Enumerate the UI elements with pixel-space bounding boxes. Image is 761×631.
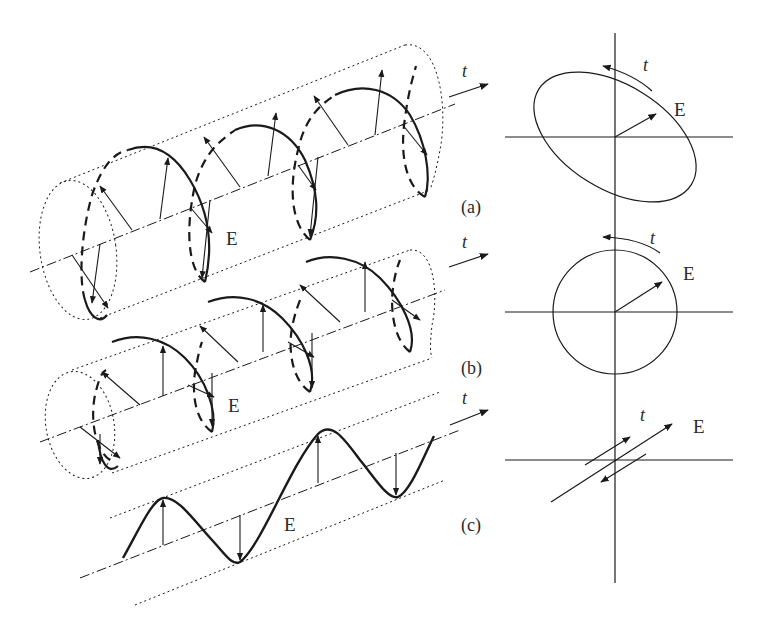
- panel-c-wave: [80, 392, 488, 605]
- end-view-b-time-label: t: [650, 229, 655, 247]
- vector-label-a: E: [226, 229, 238, 248]
- end-view-axes: [505, 33, 733, 583]
- panel-label-a: (a): [461, 198, 481, 216]
- panel-b-helix: [37, 250, 488, 484]
- end-view-c-vector-label: E: [693, 417, 705, 436]
- time-label-c: t: [462, 389, 467, 407]
- figure-canvas: [0, 0, 761, 631]
- end-view-a-time-label: t: [643, 56, 648, 74]
- panel-a-helix: [30, 45, 488, 325]
- time-label-b: t: [462, 233, 467, 251]
- time-label-a: t: [462, 62, 467, 80]
- panel-label-c: (c): [461, 516, 481, 534]
- end-view-a-vector-label: E: [674, 100, 686, 119]
- end-view-c-time-label: t: [640, 406, 645, 424]
- panel-label-b: (b): [461, 359, 482, 377]
- vector-label-b: E: [228, 396, 240, 415]
- end-view-b-vector-label: E: [683, 264, 695, 283]
- end-view-c-line: [551, 424, 672, 502]
- polarization-figure: t t t E E E (a) (b) (c) t E t E t E: [0, 0, 761, 631]
- vector-label-c: E: [284, 515, 296, 534]
